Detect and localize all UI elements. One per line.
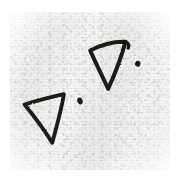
ink-drawing-layer bbox=[0, 0, 180, 185]
ink-dot-center bbox=[76, 97, 83, 105]
ink-dot-right-blob bbox=[134, 60, 141, 67]
sketch-page bbox=[0, 0, 180, 185]
triangle-upper-right bbox=[90, 42, 129, 89]
triangle-upper-right-outline bbox=[90, 42, 125, 89]
triangle-lower-left bbox=[25, 94, 64, 143]
ink-dot-center-blob bbox=[76, 97, 83, 105]
ink-dot-right bbox=[134, 60, 141, 67]
triangle-lower-left-outline bbox=[25, 94, 64, 143]
